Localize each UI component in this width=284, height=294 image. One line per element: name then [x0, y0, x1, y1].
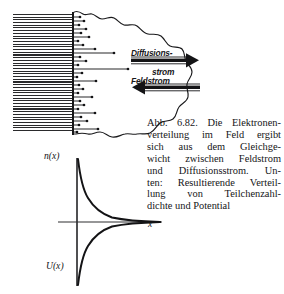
diffusion-current-label-line1: Diffusions-	[131, 48, 172, 58]
figure-abb-6-82: Diffusions- strom Feldstrom Abb. 6.82. D…	[0, 0, 284, 294]
density-potential-plot: n(x) U(x) x	[0, 140, 190, 294]
cloud-contour-bottom	[73, 132, 137, 137]
n-of-x-curve	[78, 159, 160, 222]
u-of-x-curve	[78, 222, 160, 285]
y-axis-label-density: n(x)	[44, 150, 59, 161]
plot-svg	[0, 140, 190, 294]
caption-line: Abb. 6.82. Die Elektronen-	[147, 117, 281, 129]
field-current-label: Feldstrom	[131, 76, 170, 86]
y-axis-label-potential: U(x)	[46, 260, 64, 271]
x-axis-label: x	[148, 218, 152, 229]
electron-dots	[76, 16, 130, 134]
